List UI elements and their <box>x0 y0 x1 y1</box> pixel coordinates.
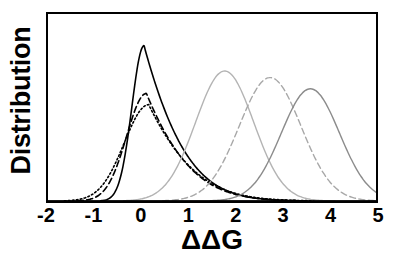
x-tick-label: 0 <box>135 204 146 226</box>
x-tick-label: -1 <box>85 204 103 226</box>
curve-gray-solid-bell-3 <box>210 89 376 201</box>
y-axis-label: Distribution <box>0 0 44 200</box>
x-tick-label: 5 <box>372 204 383 226</box>
x-axis-tick-labels: -2-1012345 <box>46 204 378 226</box>
curve-black-dotted <box>64 105 314 201</box>
curves-layer <box>48 14 376 201</box>
curve-gray-solid-bell-1 <box>123 71 335 201</box>
curve-gray-dashed-bell-2 <box>163 78 376 201</box>
y-axis-label-text: Distribution <box>7 26 38 174</box>
x-tick-label: 3 <box>278 204 289 226</box>
x-tick-label: 2 <box>230 204 241 226</box>
x-tick-label: 4 <box>325 204 336 226</box>
curve-black-dashed <box>77 93 305 200</box>
plot-area <box>46 12 378 203</box>
x-tick-label: -2 <box>37 204 55 226</box>
x-axis-label: ΔΔG <box>46 224 378 256</box>
chart-figure: Distribution -2-1012345 ΔΔG <box>0 0 403 263</box>
x-tick-label: 1 <box>183 204 194 226</box>
